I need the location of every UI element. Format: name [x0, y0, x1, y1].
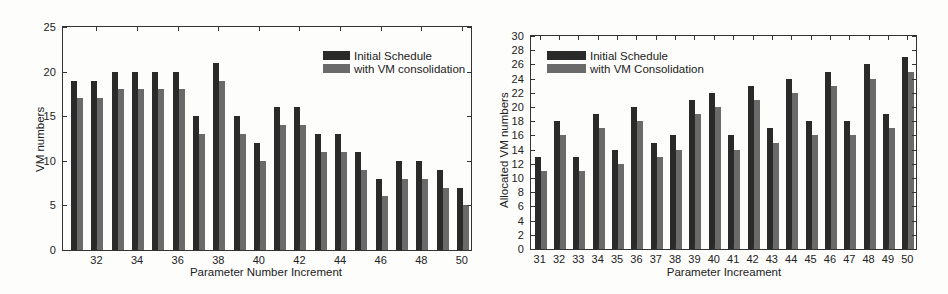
y-tick-mark — [531, 121, 535, 122]
x-tick-mark — [791, 245, 792, 249]
y-tick-mark — [912, 36, 916, 37]
x-tick-mark — [830, 245, 831, 249]
x-tick-mark — [656, 245, 657, 249]
legend-right: Initial Schedule with VM Consolidation — [547, 49, 704, 75]
x-tick-label: 44 — [785, 253, 797, 265]
x-tick-mark — [849, 36, 850, 40]
y-tick-mark — [531, 221, 535, 222]
legend-item-consolidation: with VM Consolidation — [547, 62, 704, 75]
y-tick-label: 30 — [512, 30, 524, 42]
x-tick-mark — [811, 245, 812, 249]
x-tick-mark — [869, 36, 870, 40]
x-tick-mark — [888, 245, 889, 249]
bar-vm-consolidation — [850, 135, 856, 249]
x-tick-mark — [907, 245, 908, 249]
legend-item-initial: Initial Schedule — [547, 49, 704, 62]
x-tick-mark — [598, 245, 599, 249]
x-tick-label: 38 — [669, 253, 681, 265]
bar-vm-consolidation — [754, 100, 760, 249]
x-tick-mark — [714, 245, 715, 249]
bar-vm-consolidation — [637, 121, 643, 249]
bar-vm-consolidation — [812, 135, 818, 249]
y-tick-mark — [912, 93, 916, 94]
y-axis-label-right: Allocated VM numbers — [498, 92, 510, 208]
x-tick-label: 41 — [727, 253, 739, 265]
y-tick-mark — [912, 150, 916, 151]
y-tick-label: 8 — [518, 186, 524, 198]
bar-vm-consolidation — [773, 143, 779, 250]
y-tick-label: 4 — [518, 215, 524, 227]
x-tick-mark — [636, 245, 637, 249]
x-tick-mark — [811, 36, 812, 40]
y-tick-mark — [531, 107, 535, 108]
y-tick-label: 10 — [512, 172, 524, 184]
x-tick-mark — [733, 36, 734, 40]
y-tick-mark — [912, 164, 916, 165]
y-tick-mark — [531, 135, 535, 136]
y-tick-mark — [912, 79, 916, 80]
bar-vm-consolidation — [831, 86, 837, 249]
x-tick-mark — [753, 245, 754, 249]
y-tick-label: 12 — [512, 158, 524, 170]
y-tick-mark — [912, 206, 916, 207]
x-tick-mark — [907, 36, 908, 40]
x-tick-label: 32 — [553, 253, 565, 265]
y-tick-label: 2 — [518, 229, 524, 241]
y-tick-label: 24 — [512, 73, 524, 85]
x-tick-label: 33 — [572, 253, 584, 265]
legend-swatch-consolidation — [547, 64, 586, 73]
bar-vm-consolidation — [695, 114, 701, 249]
bar-vm-consolidation — [715, 107, 721, 249]
x-tick-label: 50 — [901, 253, 913, 265]
bar-vm-consolidation — [792, 93, 798, 249]
y-tick-mark — [912, 221, 916, 222]
legend-label-consolidation: with VM Consolidation — [590, 63, 704, 75]
bar-vm-consolidation — [870, 79, 876, 249]
x-tick-mark — [636, 36, 637, 40]
x-tick-mark — [578, 36, 579, 40]
bar-vm-consolidation — [599, 128, 605, 249]
y-tick-mark — [531, 235, 535, 236]
y-tick-mark — [531, 93, 535, 94]
x-tick-label: 31 — [534, 253, 546, 265]
x-tick-label: 43 — [766, 253, 778, 265]
bar-vm-consolidation — [889, 128, 895, 249]
y-tick-mark — [912, 50, 916, 51]
x-tick-mark — [772, 245, 773, 249]
y-tick-mark — [531, 164, 535, 165]
x-tick-mark — [733, 245, 734, 249]
x-tick-mark — [617, 245, 618, 249]
y-tick-mark — [531, 206, 535, 207]
y-tick-label: 18 — [512, 115, 524, 127]
y-tick-mark — [531, 192, 535, 193]
x-tick-label: 40 — [708, 253, 720, 265]
legend-label-initial: Initial Schedule — [590, 50, 668, 62]
x-tick-mark — [559, 36, 560, 40]
x-tick-mark — [540, 245, 541, 249]
y-tick-mark — [531, 64, 535, 65]
y-tick-label: 22 — [512, 87, 524, 99]
x-tick-label: 42 — [746, 253, 758, 265]
y-tick-label: 16 — [512, 129, 524, 141]
y-tick-mark — [912, 192, 916, 193]
bar-vm-consolidation — [908, 72, 914, 250]
x-tick-label: 34 — [592, 253, 604, 265]
bar-vm-consolidation — [734, 150, 740, 249]
x-tick-mark — [772, 36, 773, 40]
x-tick-label: 46 — [824, 253, 836, 265]
y-tick-mark — [912, 107, 916, 108]
y-tick-label: 14 — [512, 144, 524, 156]
x-tick-mark — [888, 36, 889, 40]
bar-vm-consolidation — [560, 135, 566, 249]
y-tick-label: 28 — [512, 44, 524, 56]
x-tick-label: 49 — [882, 253, 894, 265]
x-tick-mark — [598, 36, 599, 40]
bar-vm-consolidation — [676, 150, 682, 249]
y-tick-mark — [912, 64, 916, 65]
x-tick-mark — [753, 36, 754, 40]
x-tick-mark — [617, 36, 618, 40]
x-tick-label: 45 — [804, 253, 816, 265]
x-tick-mark — [578, 245, 579, 249]
x-axis-label-right: Parameter Increament — [667, 266, 781, 278]
x-tick-mark — [675, 245, 676, 249]
